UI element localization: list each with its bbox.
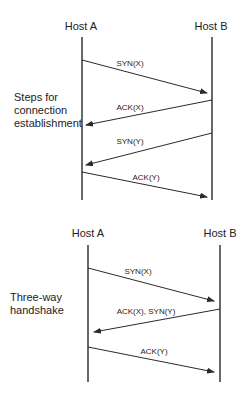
message-arrow-syn-x: [82, 60, 207, 93]
host-a-title: Host A: [72, 227, 105, 239]
host-a-title: Host A: [65, 20, 98, 32]
diagram-three-way-handshake: Host A Host B Three-way handshake SYN(X)…: [10, 227, 237, 382]
message-label-syn-x: SYN(X): [116, 59, 143, 68]
side-label-line-2: connection: [14, 104, 67, 116]
message-label-ack-y: ACK(Y): [140, 347, 167, 356]
host-b-title: Host B: [203, 227, 236, 239]
message-label-ack-x-syn-y: ACK(X), SYN(Y): [117, 307, 176, 316]
side-label-line-1: Three-way: [10, 291, 62, 303]
side-label-line-3: establishment: [14, 117, 82, 129]
message-label-ack-x: ACK(X): [116, 103, 143, 112]
message-arrow-ack-x: [86, 100, 212, 125]
message-arrow-syn-y: [86, 133, 212, 165]
side-label-line-2: handshake: [10, 304, 64, 316]
host-b-title: Host B: [194, 20, 227, 32]
tcp-handshake-diagrams: Host A Host B Steps for connection estab…: [0, 0, 250, 398]
message-label-syn-x: SYN(X): [124, 267, 151, 276]
message-label-ack-y: ACK(Y): [132, 173, 159, 182]
message-label-syn-y: SYN(Y): [116, 137, 143, 146]
side-label-line-1: Steps for: [14, 91, 58, 103]
diagram-connection-establishment: Host A Host B Steps for connection estab…: [14, 20, 228, 200]
